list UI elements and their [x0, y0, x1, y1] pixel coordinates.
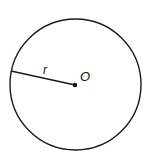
- center-label: O: [80, 69, 90, 84]
- center-point: [73, 83, 77, 87]
- radius-label: r: [43, 63, 48, 77]
- circle-diagram: r O: [0, 0, 150, 162]
